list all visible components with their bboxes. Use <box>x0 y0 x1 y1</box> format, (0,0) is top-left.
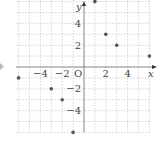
x-tick-label: 4 <box>124 68 130 79</box>
axes <box>16 1 157 132</box>
data-point <box>148 54 152 58</box>
left-pointer-icon <box>0 63 4 70</box>
x-tick-label: −4 <box>33 68 48 79</box>
y-tick-label: −2 <box>66 83 81 94</box>
y-tick-label: 2 <box>75 40 81 51</box>
x-tick-label: 2 <box>103 68 109 79</box>
y-axis-label: y <box>75 1 82 12</box>
origin-label: O <box>74 68 82 79</box>
data-point <box>93 0 97 3</box>
data-point <box>115 43 119 47</box>
x-axis-label: x <box>148 68 154 79</box>
data-point <box>71 131 75 135</box>
y-tick-label: −4 <box>66 105 81 116</box>
grid-lines <box>16 0 150 132</box>
x-tick-label: −2 <box>55 68 70 79</box>
coordinate-plane-chart: −4−22442−2−4 x y O <box>0 0 164 144</box>
y-tick-label: 4 <box>75 18 81 29</box>
data-point <box>104 33 108 37</box>
data-point <box>17 76 21 80</box>
data-point <box>60 98 64 102</box>
data-point <box>50 87 54 91</box>
